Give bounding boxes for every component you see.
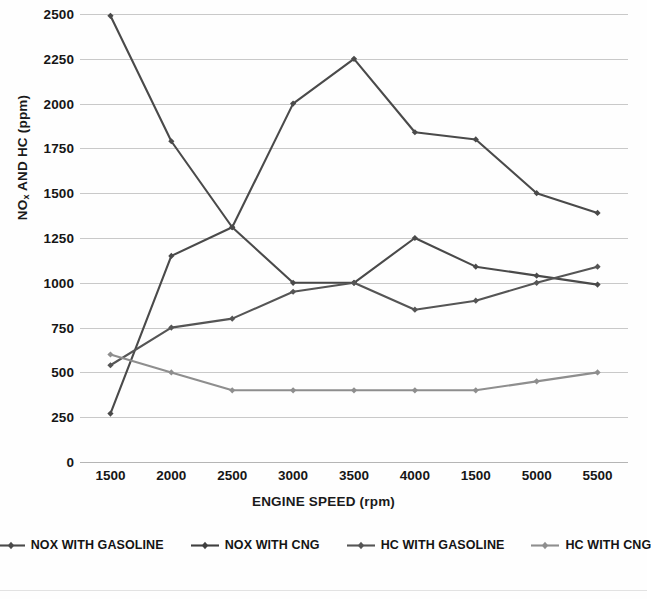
data-point-marker xyxy=(594,264,600,270)
data-point-marker xyxy=(412,307,418,313)
legend-label: NOX WITH GASOLINE xyxy=(31,538,164,552)
y-axis-tick-label: 250 xyxy=(51,410,74,425)
y-axis-tick-label: 500 xyxy=(51,365,74,380)
data-point-marker xyxy=(229,387,235,393)
legend-item[interactable]: HC WITH CNG xyxy=(530,538,651,552)
y-axis-tick-label: 1750 xyxy=(44,141,74,156)
y-axis-tick-label: 2000 xyxy=(44,96,74,111)
data-point-marker xyxy=(594,369,600,375)
series-layer xyxy=(80,14,628,462)
data-point-marker xyxy=(534,280,540,286)
x-axis-title: ENGINE SPEED (rpm) xyxy=(0,494,647,509)
legend-marker-icon xyxy=(0,540,26,551)
data-point-marker xyxy=(229,316,235,322)
series-line xyxy=(110,59,597,414)
plot-area xyxy=(80,14,628,462)
legend-item[interactable]: NOX WITH CNG xyxy=(190,538,320,552)
data-point-marker xyxy=(107,411,113,417)
legend-label: HC WITH GASOLINE xyxy=(381,538,505,552)
y-axis-tick-label: 2250 xyxy=(44,51,74,66)
data-point-marker xyxy=(534,378,540,384)
data-point-marker xyxy=(168,369,174,375)
data-point-marker xyxy=(534,273,540,279)
y-axis-tick-label: 1000 xyxy=(44,275,74,290)
data-point-marker xyxy=(594,210,600,216)
chart-legend: NOX WITH GASOLINENOX WITH CNGHC WITH GAS… xyxy=(0,538,647,552)
legend-label: NOX WITH CNG xyxy=(225,538,320,552)
y-axis-tick-label: 1500 xyxy=(44,186,74,201)
data-point-marker xyxy=(594,281,600,287)
gridline xyxy=(80,462,628,463)
legend-marker-icon xyxy=(346,540,376,551)
y-axis-tick-label: 0 xyxy=(66,455,74,470)
x-axis-tick-labels: 150020002500300035004000150050005500 xyxy=(80,468,628,490)
data-point-marker xyxy=(107,351,113,357)
x-axis-tick-label: 1500 xyxy=(461,468,491,483)
legend-marker-icon xyxy=(530,540,560,551)
data-point-marker xyxy=(473,298,479,304)
legend-item[interactable]: HC WITH GASOLINE xyxy=(346,538,505,552)
x-axis-tick-label: 3500 xyxy=(339,468,369,483)
bottom-divider xyxy=(0,590,647,591)
legend-label: HC WITH CNG xyxy=(565,538,651,552)
data-point-marker xyxy=(412,387,418,393)
data-point-marker xyxy=(290,387,296,393)
x-axis-tick-label: 1500 xyxy=(95,468,125,483)
data-point-marker xyxy=(290,289,296,295)
legend-marker-icon xyxy=(190,540,220,551)
x-axis-tick-label: 5500 xyxy=(583,468,613,483)
data-point-marker xyxy=(473,387,479,393)
y-axis-tick-label: 750 xyxy=(51,320,74,335)
x-axis-tick-label: 4000 xyxy=(400,468,430,483)
y-axis-tick-labels: 02505007501000125015001750200022502500 xyxy=(22,0,74,466)
x-axis-tick-label: 2000 xyxy=(156,468,186,483)
legend-item[interactable]: NOX WITH GASOLINE xyxy=(0,538,164,552)
x-axis-tick-label: 5000 xyxy=(522,468,552,483)
x-axis-tick-label: 2500 xyxy=(217,468,247,483)
y-axis-tick-label: 1250 xyxy=(44,231,74,246)
y-axis-tick-label: 2500 xyxy=(44,7,74,22)
series-line xyxy=(110,354,597,390)
data-point-marker xyxy=(351,387,357,393)
x-axis-tick-label: 3000 xyxy=(278,468,308,483)
